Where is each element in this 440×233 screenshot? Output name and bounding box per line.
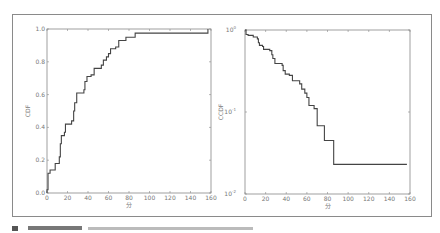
x-tick-label: 80 (324, 195, 332, 202)
x-tick-label: 0 (243, 195, 247, 202)
y-tick-label: 100 (226, 25, 237, 33)
x-tick-label: 160 (205, 194, 217, 201)
x-tick-label: 140 (384, 195, 396, 202)
plot-area (245, 30, 410, 194)
step-line (245, 30, 407, 164)
figure-plots: 0204060801001201401600.00.20.40.60.81.0分… (0, 0, 440, 233)
x-axis-label: 分 (126, 201, 132, 209)
x-tick-label: 40 (282, 195, 290, 202)
step-line (47, 29, 208, 193)
ccdf-chart: 02040608010012014016010-210-1100分CCDF (217, 25, 416, 210)
x-tick-label: 120 (164, 194, 176, 201)
y-axis-label: CDF (24, 104, 31, 117)
x-tick-label: 20 (64, 194, 72, 201)
y-tick-label: 0.2 (35, 156, 45, 163)
y-tick-label: 0.4 (35, 123, 45, 130)
x-tick-label: 80 (125, 194, 133, 201)
x-tick-label: 160 (404, 195, 416, 202)
plot-area (47, 29, 211, 193)
x-tick-label: 120 (363, 195, 375, 202)
y-tick-label: 10-2 (224, 189, 236, 197)
x-axis-label: 分 (325, 202, 331, 210)
figure-caption (12, 224, 253, 232)
x-tick-label: 140 (185, 194, 197, 201)
y-tick-label: 0.6 (35, 91, 45, 98)
y-tick-label: 0.8 (35, 58, 45, 65)
cdf-chart: 0204060801001201401600.00.20.40.60.81.0分… (24, 25, 217, 209)
x-tick-label: 100 (144, 194, 156, 201)
y-tick-label: 10-1 (224, 107, 236, 115)
caption-text (88, 227, 253, 230)
caption-title (28, 226, 82, 230)
x-tick-label: 0 (45, 194, 49, 201)
y-axis-label: CCDF (217, 103, 224, 120)
x-tick-label: 60 (105, 194, 113, 201)
x-tick-label: 60 (303, 195, 311, 202)
x-tick-label: 40 (84, 194, 92, 201)
y-tick-label: 1.0 (35, 25, 45, 32)
caption-figure-label (12, 226, 18, 231)
y-tick-label: 0.0 (35, 189, 45, 196)
x-tick-label: 20 (262, 195, 270, 202)
x-tick-label: 100 (342, 195, 354, 202)
